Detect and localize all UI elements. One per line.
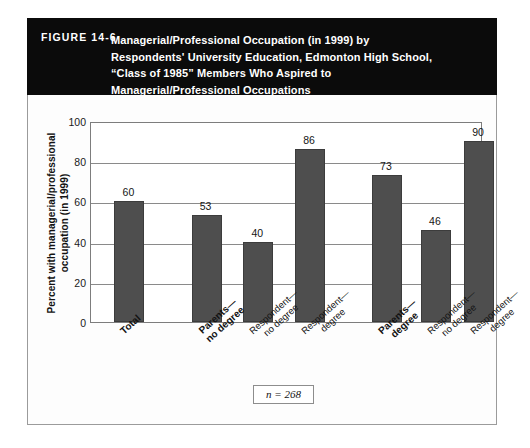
bar [192,215,222,322]
figure-title-text: Managerial/Professional Occupation (in 1… [111,32,485,98]
bar-value-label: 53 [200,200,212,212]
y-axis-tick-label: 100 [52,116,86,128]
y-axis-tick-label: 20 [52,277,86,289]
figure-title-banner: FIGURE 14-6 Managerial/Professional Occu… [27,18,497,95]
y-axis-tick-label: 80 [52,156,86,168]
figure-title-line-1: Managerial/Professional Occupation (in 1… [111,32,485,49]
figure-title-line-2: Respondents' University Education, Edmon… [111,49,485,66]
bar-value-label: 60 [123,186,135,198]
bar-value-label: 90 [472,126,484,138]
bar [114,201,144,322]
sample-size-note: n = 268 [253,385,314,404]
bar [372,175,402,322]
figure-title-line-3: “Class of 1985” Members Who Aspired to [111,65,485,82]
bar-value-label: 46 [429,215,441,227]
y-axis-tick-label: 0 [52,317,86,329]
gridline [91,163,481,164]
figure-title-block: FIGURE 14-6 Managerial/Professional Occu… [41,27,485,98]
y-axis-tick-label: 60 [52,196,86,208]
bar-value-label: 40 [252,227,264,239]
figure-root: FIGURE 14-6 Managerial/Professional Occu… [0,0,530,448]
bar-value-label: 73 [380,160,392,172]
figure-number-label: FIGURE 14-6 [41,31,117,43]
y-axis-tick-labels: 020406080100 [50,122,86,323]
y-axis-tick-label: 40 [52,237,86,249]
gridline [91,203,481,204]
bar-value-label: 86 [303,134,315,146]
